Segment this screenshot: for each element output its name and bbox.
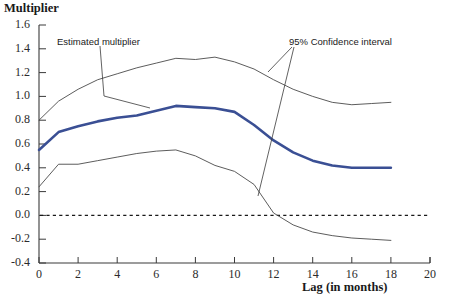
axis-lines — [39, 25, 430, 263]
series-line-2 — [39, 150, 391, 240]
leader-line-estimated-a — [100, 46, 104, 96]
series-line-1 — [39, 57, 391, 120]
leader-line-ci-upper — [268, 47, 292, 72]
plot-area — [0, 0, 449, 299]
multiplier-chart: Multiplier Lag (in months) 1.61.41.21.00… — [0, 0, 449, 299]
leader-line-ci-lower — [258, 47, 294, 196]
leader-line-estimated-b — [104, 96, 150, 108]
data-series-group — [39, 57, 391, 240]
series-line-0 — [39, 106, 391, 168]
annotation-leader-lines — [100, 46, 294, 196]
